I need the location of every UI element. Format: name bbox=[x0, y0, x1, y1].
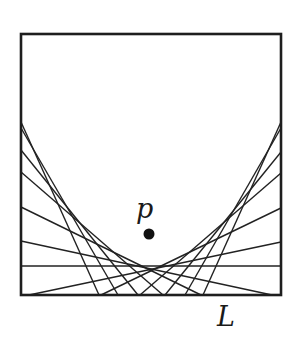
tangent-line bbox=[101, 208, 281, 295]
directrix-label-l: L bbox=[216, 301, 235, 332]
point-label-p: p bbox=[136, 193, 153, 224]
parabola-envelope-diagram: p L bbox=[0, 0, 306, 345]
tangent-line bbox=[21, 241, 272, 295]
tangent-line bbox=[29, 242, 281, 295]
square-frame bbox=[21, 34, 281, 295]
tangent-line bbox=[21, 128, 118, 295]
focus-point-p bbox=[144, 229, 155, 240]
tangent-line bbox=[21, 172, 163, 295]
